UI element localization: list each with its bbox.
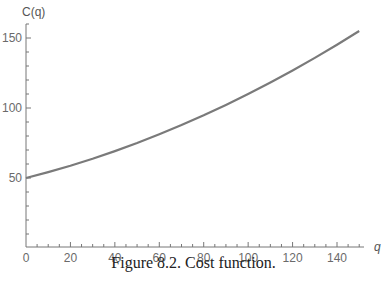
figure-caption: Figure 8.2. Cost function. — [0, 254, 387, 272]
cost-function-chart: 50100150020406080100120140 C(q) q — [0, 0, 387, 287]
x-axis-label: q — [374, 240, 381, 254]
y-tick-label: 100 — [2, 101, 22, 115]
y-tick-label: 50 — [9, 171, 23, 185]
cost-curve — [26, 31, 359, 178]
caption-text: Figure 8.2. Cost function. — [111, 254, 275, 272]
y-axis-label: C(q) — [22, 5, 45, 19]
y-tick-label: 150 — [2, 31, 22, 45]
